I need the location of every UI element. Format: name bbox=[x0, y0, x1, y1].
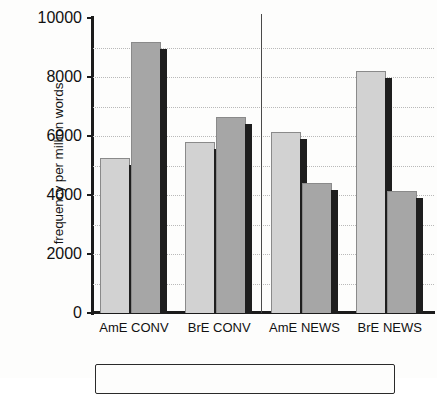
y-axis-tick-label: 8000 bbox=[2, 69, 82, 85]
x-axis-category-label: BrE NEWS bbox=[346, 320, 434, 335]
x-axis-category-label: AmE CONV bbox=[90, 320, 178, 335]
group-divider bbox=[261, 14, 262, 313]
bar-shadow bbox=[245, 124, 252, 314]
y-axis-tick bbox=[87, 312, 93, 314]
legend-box bbox=[95, 364, 395, 394]
y-axis-tick bbox=[87, 194, 93, 196]
y-axis-tick-label: 10000 bbox=[2, 10, 82, 26]
x-axis-category-label: BrE CONV bbox=[175, 320, 263, 335]
y-axis-tick-label: 4000 bbox=[2, 187, 82, 203]
bar bbox=[271, 132, 301, 313]
bar bbox=[216, 117, 246, 313]
y-axis-tick-label: 0 bbox=[2, 305, 82, 321]
bar-shadow bbox=[416, 198, 423, 314]
bar bbox=[185, 142, 215, 313]
y-axis-tick-label: 2000 bbox=[2, 246, 82, 262]
y-axis-tick bbox=[87, 253, 93, 255]
bar bbox=[356, 71, 386, 313]
bar-shadow bbox=[331, 190, 338, 314]
plot-area: 0200040006000800010000 bbox=[93, 18, 434, 313]
bar bbox=[131, 42, 161, 313]
x-axis-category-label: AmE NEWS bbox=[261, 320, 349, 335]
y-axis-tick bbox=[87, 76, 93, 78]
y-axis-tick bbox=[87, 17, 93, 19]
bar-shadow bbox=[160, 49, 167, 314]
y-axis-title: frequency per million words bbox=[51, 14, 66, 314]
bar bbox=[302, 183, 332, 313]
y-axis-tick-label: 6000 bbox=[2, 128, 82, 144]
bar bbox=[387, 191, 417, 313]
bar bbox=[100, 158, 130, 313]
y-axis-tick bbox=[87, 135, 93, 137]
